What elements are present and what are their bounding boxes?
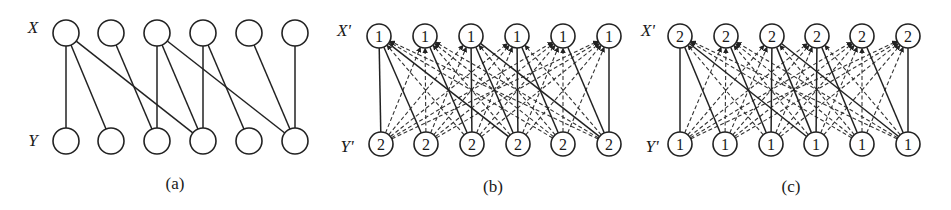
panel-caption: (b) (483, 177, 503, 196)
node-value: 1 (467, 28, 475, 45)
bottom-row-label: Y' (645, 137, 658, 156)
bottom-node-1 (53, 128, 79, 154)
node-value: 2 (468, 136, 476, 153)
panel-caption: (a) (166, 174, 185, 193)
node-value: 1 (421, 28, 429, 45)
top-node-5: 2 (850, 24, 874, 48)
panel-caption: (c) (782, 177, 801, 196)
node-value: 1 (513, 28, 521, 45)
panel-b: 111111222222X'Y'(b) (336, 21, 621, 196)
edges (379, 41, 609, 139)
bottom-node-6: 1 (896, 132, 920, 156)
bottom-node-3: 2 (460, 132, 484, 156)
top-node-1: 2 (668, 24, 692, 48)
bottom-node-6 (282, 128, 308, 154)
node-value: 1 (721, 136, 729, 153)
node-value: 2 (559, 136, 567, 153)
bottom-node-4: 1 (804, 132, 828, 156)
node-value: 2 (722, 28, 730, 45)
bottom-node-3 (144, 128, 170, 154)
solid-edge (379, 48, 381, 132)
top-node-6: 1 (597, 24, 621, 48)
solid-edge (208, 45, 244, 129)
node-value: 2 (605, 136, 613, 153)
bottom-node-5: 2 (551, 132, 575, 156)
top-node-3 (144, 20, 170, 46)
bottom-node-1: 1 (668, 132, 692, 156)
solid-edge (517, 48, 518, 132)
node-circle (236, 20, 262, 46)
top-node-4 (190, 20, 216, 46)
solid-edge (162, 45, 198, 129)
node-value: 2 (768, 28, 776, 45)
node-circle (98, 20, 124, 46)
top-node-3: 1 (459, 24, 483, 48)
top-node-5: 1 (551, 24, 575, 48)
edges (66, 41, 295, 133)
bottom-row-label: Y (28, 131, 39, 150)
edges (680, 41, 908, 139)
node-circle (282, 20, 308, 46)
solid-edge (71, 45, 106, 129)
top-row-label: X (27, 18, 39, 37)
bottom-node-2 (98, 128, 124, 154)
node-value: 1 (676, 136, 684, 153)
node-value: 1 (559, 28, 567, 45)
bottom-row-label: Y' (340, 137, 353, 156)
solid-edge (116, 45, 152, 129)
node-value: 2 (813, 28, 821, 45)
bipartite-graph-figure: XY(a) 111111222222X'Y'(b) 222222111111X'… (0, 0, 951, 210)
top-node-2: 2 (714, 24, 738, 48)
bottom-node-5 (236, 128, 262, 154)
top-node-4: 1 (505, 24, 529, 48)
bottom-node-6: 2 (597, 132, 621, 156)
node-value: 2 (422, 136, 430, 153)
node-value: 2 (858, 28, 866, 45)
solid-edge (254, 45, 290, 129)
node-value: 2 (514, 136, 522, 153)
solid-edge (771, 48, 772, 132)
node-value: 1 (605, 28, 613, 45)
top-node-2 (98, 20, 124, 46)
node-value: 2 (904, 28, 912, 45)
node-circle (190, 128, 216, 154)
solid-edge (816, 48, 817, 132)
bottom-node-1: 2 (369, 132, 393, 156)
node-circle (144, 128, 170, 154)
top-node-3: 2 (760, 24, 784, 48)
top-row-label: X' (640, 21, 655, 40)
node-value: 1 (812, 136, 820, 153)
top-row-label: X' (336, 21, 351, 40)
bottom-node-3: 1 (759, 132, 783, 156)
bottom-node-4 (190, 128, 216, 154)
node-value: 1 (767, 136, 775, 153)
node-circle (190, 20, 216, 46)
node-circle (53, 128, 79, 154)
top-node-1: 1 (367, 24, 391, 48)
top-node-5 (236, 20, 262, 46)
node-circle (98, 128, 124, 154)
node-circle (53, 20, 79, 46)
node-value: 2 (377, 136, 385, 153)
bottom-node-2: 2 (414, 132, 438, 156)
node-circle (144, 20, 170, 46)
top-node-6: 2 (896, 24, 920, 48)
bottom-node-2: 1 (713, 132, 737, 156)
node-value: 1 (904, 136, 912, 153)
top-node-1 (53, 20, 79, 46)
top-node-6 (282, 20, 308, 46)
bottom-node-4: 2 (506, 132, 530, 156)
top-node-2: 1 (413, 24, 437, 48)
bottom-node-5: 1 (850, 132, 874, 156)
node-value: 1 (858, 136, 866, 153)
node-value: 2 (676, 28, 684, 45)
panel-a: XY(a) (27, 18, 308, 193)
node-circle (282, 128, 308, 154)
node-value: 1 (375, 28, 383, 45)
node-circle (236, 128, 262, 154)
dashed-edge (425, 48, 426, 132)
top-node-4: 2 (805, 24, 829, 48)
solid-edge (471, 48, 472, 132)
panel-c: 222222111111X'Y'(c) (640, 21, 920, 196)
